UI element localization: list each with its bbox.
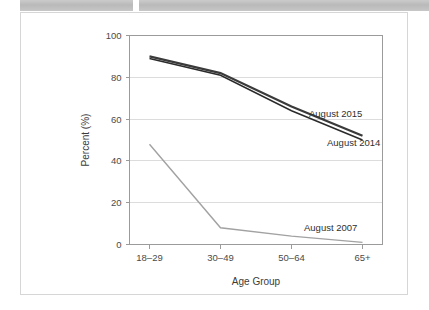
series-label-august-2007: August 2007 <box>304 222 357 233</box>
x-tick-label-1: 30–49 <box>207 252 233 263</box>
x-tick-label-2: 50–64 <box>278 252 304 263</box>
redacted-strip-right <box>139 0 429 11</box>
y-axis-title: Percent (%) <box>80 114 91 167</box>
y-tick-label-0: 0 <box>116 239 121 250</box>
x-tick-label-3: 65+ <box>354 252 371 263</box>
y-tick-label-80: 80 <box>111 72 122 83</box>
data-series-group <box>150 56 363 242</box>
line-chart: 020406080100 18–2930–4950–6465+ August 2… <box>21 13 409 296</box>
y-tick-label-60: 60 <box>111 114 122 125</box>
figure-card: 020406080100 18–2930–4950–6465+ August 2… <box>20 12 408 295</box>
series-line-august-2015 <box>150 56 363 135</box>
series-label-august-2014: August 2014 <box>327 137 380 148</box>
redacted-header-strips <box>0 0 429 12</box>
x-tick-label-0: 18–29 <box>136 252 162 263</box>
y-tick-label-40: 40 <box>111 155 122 166</box>
y-tick-label-100: 100 <box>106 30 122 41</box>
redacted-strip-left <box>20 0 133 11</box>
chart-canvas: 020406080100 18–2930–4950–6465+ August 2… <box>21 13 409 296</box>
y-axis-ticks: 020406080100 <box>106 30 130 250</box>
x-axis-title: Age Group <box>232 276 281 287</box>
series-label-august-2015: August 2015 <box>309 108 362 119</box>
series-line-august-2014 <box>150 58 363 140</box>
x-axis-ticks: 18–2930–4950–6465+ <box>136 245 371 263</box>
y-tick-label-20: 20 <box>111 197 122 208</box>
